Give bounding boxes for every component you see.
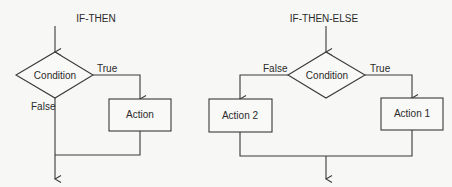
merge-line [240, 130, 412, 156]
true-label: True [97, 63, 118, 74]
true-branch-arrow [93, 75, 140, 99]
action-label: Action [126, 109, 154, 120]
false-label: False [31, 101, 56, 112]
true-branch-arrow [365, 75, 412, 98]
false-branch-arrow [240, 75, 288, 99]
if-then-else-diagram: IF-THEN-ELSE Condition False True Action… [209, 13, 443, 179]
condition-label: Condition [306, 70, 348, 81]
flowchart-canvas: IF-THEN Condition True Action False IF-T… [0, 0, 452, 187]
if-then-else-title: IF-THEN-ELSE [290, 13, 359, 24]
true-label: True [370, 63, 391, 74]
action-1-label: Action 1 [394, 108, 431, 119]
action-2-label: Action 2 [222, 110, 259, 121]
if-then-title: IF-THEN [76, 13, 115, 24]
condition-label: Condition [34, 70, 76, 81]
if-then-diagram: IF-THEN Condition True Action False [16, 13, 171, 179]
merge-line [55, 131, 140, 155]
false-label: False [263, 63, 288, 74]
